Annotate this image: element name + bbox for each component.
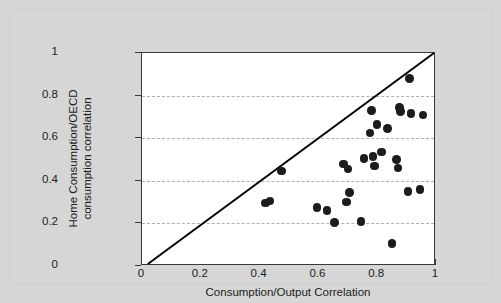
scatter-point <box>366 129 375 138</box>
y-tick-label-0.6: 0.6 <box>42 131 58 143</box>
x-tick-label-0.6: 0.6 <box>309 268 325 280</box>
scatter-point <box>388 239 397 248</box>
x-tick-label-0.4: 0.4 <box>251 268 267 280</box>
reference-line-45-degree <box>142 53 434 264</box>
y-tick-mark-0 <box>135 265 141 266</box>
scatter-point <box>342 198 351 207</box>
x-tick-label-0.2: 0.2 <box>192 268 208 280</box>
scatter-point <box>330 218 339 227</box>
scatter-point <box>377 148 386 157</box>
scatter-point <box>407 109 416 118</box>
y-axis-label-line2: consumption correlation <box>80 52 94 265</box>
y-axis-label: Home Consumption/OECD consumption correl… <box>66 52 96 265</box>
scatter-point <box>419 111 428 120</box>
scatter-point <box>369 152 378 161</box>
scatter-point <box>367 106 376 115</box>
scatter-point <box>383 124 392 133</box>
plot-area <box>141 52 435 265</box>
y-tick-label-0: 0 <box>52 259 58 271</box>
scatter-point <box>404 187 413 196</box>
y-tick-label-1: 1 <box>52 46 58 58</box>
scatter-point <box>345 188 354 197</box>
x-tick-label-0: 0 <box>138 268 144 280</box>
scatter-point <box>396 107 405 116</box>
x-axis-label: Consumption/Output Correlation <box>141 286 435 299</box>
scatter-point <box>357 217 366 226</box>
x-tick-label-1: 1 <box>432 268 438 280</box>
scatter-point <box>360 154 369 163</box>
figure-inner-panel: 00.20.40.60.81 00.20.40.60.81 Home Consu… <box>9 9 492 285</box>
figure-container: 00.20.40.60.81 00.20.40.60.81 Home Consu… <box>0 0 501 303</box>
y-tick-label-0.8: 0.8 <box>42 89 58 101</box>
scatter-point <box>392 155 401 164</box>
scatter-point <box>373 120 382 129</box>
x-tick-label-0.8: 0.8 <box>368 268 384 280</box>
x-tick-mark-1 <box>435 259 436 265</box>
y-axis-label-line1: Home Consumption/OECD <box>66 52 80 265</box>
scatter-point <box>405 74 414 83</box>
scatter-point <box>370 162 379 171</box>
scatter-point <box>313 203 322 212</box>
scatter-point <box>416 185 425 194</box>
y-tick-label-0.2: 0.2 <box>42 217 58 229</box>
y-tick-label-0.4: 0.4 <box>42 174 58 186</box>
